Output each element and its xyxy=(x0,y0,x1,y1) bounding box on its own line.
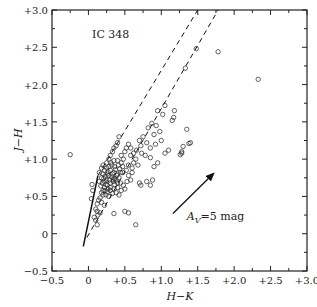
star-point xyxy=(139,144,143,148)
star-point xyxy=(159,138,163,142)
x-axis-label: H−K xyxy=(165,290,194,303)
star-point xyxy=(256,77,260,81)
star-point xyxy=(90,182,94,186)
star-point xyxy=(119,188,123,192)
plot-frame xyxy=(52,10,307,271)
x-tick-label: 0 xyxy=(85,275,91,286)
y-tick-label: 0 xyxy=(42,229,48,240)
y-tick-label: +2.5 xyxy=(24,42,48,53)
star-point xyxy=(141,135,145,139)
x-tick-label: +2.5 xyxy=(258,275,282,286)
star-point xyxy=(117,193,121,197)
star-point xyxy=(112,211,116,215)
star-point xyxy=(216,50,220,54)
star-point xyxy=(154,123,158,127)
star-point xyxy=(126,173,130,177)
star-point xyxy=(148,155,152,159)
star-point xyxy=(136,163,140,167)
annotations: IC 348AV=5 mag xyxy=(92,28,244,225)
star-point xyxy=(145,141,149,145)
star-point xyxy=(161,112,165,116)
star-point xyxy=(148,146,152,150)
star-point xyxy=(125,179,129,183)
cluster-label: IC 348 xyxy=(92,28,129,41)
star-point xyxy=(126,211,130,215)
star-point xyxy=(185,127,189,131)
y-tick-label: +2.0 xyxy=(24,80,48,91)
x-tick-label: +1.5 xyxy=(186,275,210,286)
reddening-vector-arrow xyxy=(173,173,214,213)
star-point xyxy=(121,157,125,161)
star-point xyxy=(95,202,99,206)
color-color-diagram: −0.50+0.5+1.0+1.5+2.0+2.5+3.0 −0.50+0.5+… xyxy=(0,0,317,307)
x-tick-label: +3.0 xyxy=(295,275,317,286)
y-tick-label: +1.0 xyxy=(24,154,48,165)
x-tick-label: +2.0 xyxy=(222,275,246,286)
star-point xyxy=(155,161,159,165)
x-axis-ticks: −0.50+0.5+1.0+1.5+2.0+2.5+3.0 xyxy=(40,10,317,286)
y-tick-label: −0.5 xyxy=(24,266,48,277)
star-point xyxy=(130,166,134,170)
star-point xyxy=(187,141,191,145)
star-point xyxy=(131,161,135,165)
star-point xyxy=(145,179,149,183)
star-point xyxy=(152,164,156,168)
star-point xyxy=(116,163,120,167)
star-point xyxy=(123,149,127,153)
star-point xyxy=(152,132,156,136)
y-tick-label: +0.5 xyxy=(24,191,48,202)
star-point xyxy=(163,103,167,107)
star-point xyxy=(183,66,187,70)
star-point xyxy=(163,151,167,155)
y-axis-ticks: −0.50+0.5+1.0+1.5+2.0+2.5+3.0 xyxy=(24,5,307,277)
plot-border xyxy=(52,10,307,271)
y-tick-label: +3.0 xyxy=(24,5,48,16)
star-point xyxy=(120,164,124,168)
y-axis-label: J−H xyxy=(12,128,25,154)
star-point xyxy=(137,138,141,142)
reference-lines xyxy=(83,10,218,246)
star-point xyxy=(128,153,132,157)
reddening-vector-label: AV=5 mag xyxy=(186,210,244,225)
star-point xyxy=(166,148,170,152)
star-point xyxy=(150,178,154,182)
star-point xyxy=(134,223,138,227)
star-point xyxy=(172,108,176,112)
star-point xyxy=(158,129,162,133)
star-point xyxy=(130,170,134,174)
star-point xyxy=(134,148,138,152)
y-tick-label: +1.5 xyxy=(24,117,48,128)
reddening-band-lower xyxy=(87,10,218,237)
star-point xyxy=(95,223,99,227)
x-tick-label: +1.0 xyxy=(149,275,173,286)
star-point xyxy=(68,152,72,156)
star-point xyxy=(128,146,132,150)
star-point xyxy=(153,142,157,146)
star-point xyxy=(155,108,159,112)
star-point xyxy=(117,135,121,139)
star-point xyxy=(181,144,185,148)
star-point xyxy=(143,153,147,157)
star-point xyxy=(124,168,128,172)
x-tick-label: +0.5 xyxy=(113,275,137,286)
star-point xyxy=(148,183,152,187)
data-points xyxy=(68,47,260,227)
